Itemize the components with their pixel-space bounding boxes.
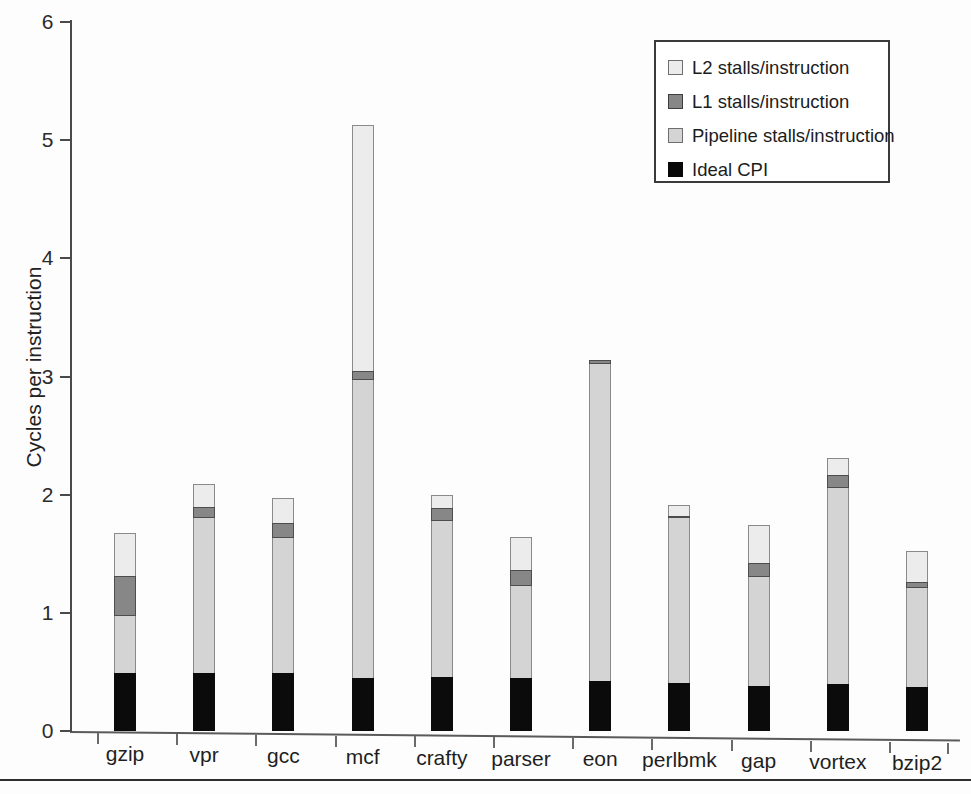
y-axis-tick-label: 2 — [14, 484, 54, 505]
bar-crafty — [431, 495, 453, 731]
bar-segment-l2 — [748, 525, 770, 563]
bar-segment-pipe — [272, 538, 294, 673]
legend-item-ideal: Ideal CPI — [668, 154, 888, 185]
legend-swatch-icon — [668, 60, 683, 75]
y-axis-tick — [60, 257, 72, 259]
x-axis-line — [70, 731, 960, 742]
bar-segment-pipe — [748, 577, 770, 686]
x-axis-label-gzip: gzip — [106, 742, 145, 766]
legend-swatch-icon — [668, 94, 683, 109]
bar-segment-ideal — [114, 673, 136, 731]
x-axis-tick — [255, 735, 257, 746]
bar-gap — [748, 525, 770, 731]
bar-segment-pipe — [431, 521, 453, 677]
bar-bzip2 — [906, 551, 928, 731]
bar-segment-l2 — [193, 484, 215, 506]
x-axis-label-perlbmk: perlbmk — [642, 748, 717, 772]
bar-segment-ideal — [193, 673, 215, 731]
bar-segment-pipe — [352, 380, 374, 678]
y-axis-tick — [60, 730, 72, 732]
legend-label: L2 stalls/instruction — [692, 57, 849, 79]
bar-vortex — [827, 458, 849, 731]
chart-legend: L2 stalls/instructionL1 stalls/instructi… — [654, 40, 890, 183]
y-axis-tick — [60, 376, 72, 378]
bar-segment-l1 — [510, 570, 532, 585]
bar-segment-pipe — [668, 518, 690, 682]
bar-segment-l1 — [272, 523, 294, 538]
x-axis-tick — [176, 734, 178, 745]
bar-parser — [510, 537, 532, 731]
y-axis-tick — [60, 139, 72, 141]
bar-segment-pipe — [193, 518, 215, 673]
bar-segment-ideal — [352, 678, 374, 731]
bar-gzip — [114, 533, 136, 732]
bar-segment-l1 — [352, 371, 374, 380]
x-axis-tick — [731, 740, 733, 751]
y-axis-tick-label: 1 — [14, 602, 54, 623]
bar-segment-ideal — [827, 684, 849, 731]
legend-label: L1 stalls/instruction — [692, 91, 849, 113]
legend-swatch-icon — [668, 162, 683, 177]
bar-segment-ideal — [431, 677, 453, 731]
bar-segment-pipe — [906, 588, 928, 687]
bar-perlbmk — [668, 505, 690, 731]
bar-segment-ideal — [748, 686, 770, 731]
y-axis-tick — [60, 494, 72, 496]
bar-gcc — [272, 498, 294, 731]
x-axis-tick — [335, 736, 337, 747]
bar-segment-l1 — [748, 563, 770, 577]
bar-mcf — [352, 125, 374, 731]
x-axis-label-gap: gap — [741, 749, 776, 773]
y-axis-tick-label: 5 — [14, 129, 54, 150]
bar-eon — [589, 360, 611, 731]
x-axis-label-gcc: gcc — [267, 744, 300, 768]
bar-segment-l2 — [906, 551, 928, 582]
y-axis-tick-label: 6 — [14, 11, 54, 32]
bar-segment-l2 — [114, 533, 136, 577]
x-axis-tick — [947, 743, 949, 754]
y-axis-tick — [60, 612, 72, 614]
y-axis-tick-label: 0 — [14, 720, 54, 741]
bar-segment-l2 — [668, 505, 690, 516]
bar-vpr — [193, 484, 215, 731]
bar-segment-l1 — [114, 576, 136, 616]
legend-label: Ideal CPI — [692, 159, 768, 181]
legend-item-pipe: Pipeline stalls/instruction — [668, 120, 888, 151]
y-axis-tick — [60, 21, 72, 23]
x-axis-label-eon: eon — [583, 747, 618, 771]
x-axis-label-vpr: vpr — [190, 743, 219, 767]
x-axis-label-crafty: crafty — [416, 746, 467, 770]
bar-segment-l2 — [431, 495, 453, 508]
bar-segment-l1 — [827, 475, 849, 488]
bar-segment-pipe — [827, 488, 849, 684]
bar-segment-l1 — [431, 508, 453, 521]
y-axis-tick-label: 4 — [14, 247, 54, 268]
bar-segment-l2 — [827, 458, 849, 475]
y-axis-tick-label: 3 — [14, 366, 54, 387]
bar-segment-pipe — [510, 586, 532, 678]
bar-segment-ideal — [668, 683, 690, 731]
x-axis-tick — [572, 738, 574, 749]
legend-swatch-icon — [668, 128, 683, 143]
bar-segment-ideal — [906, 687, 928, 731]
bottom-rule — [0, 779, 971, 781]
legend-item-l2: L2 stalls/instruction — [668, 52, 888, 83]
bar-segment-pipe — [114, 616, 136, 673]
x-axis-tick — [889, 742, 891, 753]
x-axis-label-bzip2: bzip2 — [892, 751, 942, 775]
bar-segment-ideal — [272, 673, 294, 731]
x-axis-label-vortex: vortex — [809, 750, 866, 774]
legend-label: Pipeline stalls/instruction — [692, 125, 895, 147]
bar-segment-pipe — [589, 364, 611, 682]
bar-segment-l2 — [272, 498, 294, 523]
bar-segment-ideal — [589, 681, 611, 731]
bar-segment-l2 — [352, 125, 374, 371]
bar-segment-l1 — [193, 507, 215, 519]
x-axis-label-mcf: mcf — [346, 745, 380, 769]
bar-segment-l2 — [510, 537, 532, 570]
x-axis-label-parser: parser — [491, 747, 551, 771]
chart-figure: Cycles per instruction 0123456 gzipvprgc… — [0, 0, 971, 794]
bar-segment-ideal — [510, 678, 532, 731]
legend-item-l1: L1 stalls/instruction — [668, 86, 888, 117]
x-axis-tick — [97, 733, 99, 744]
